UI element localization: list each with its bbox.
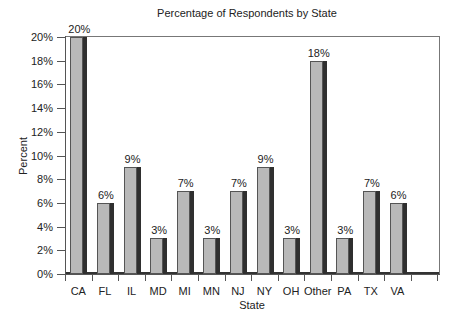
bar-side [349,238,353,274]
bar-md [150,238,167,274]
y-tick-label: 2% [0,244,53,256]
x-tick [118,274,119,281]
bar-mn [203,238,220,274]
y-tick-label: 20% [0,31,53,43]
bar-side [137,167,141,274]
bar-front [390,203,403,274]
bar-side [270,167,274,274]
y-axis-line [65,36,66,281]
x-tick [278,274,279,281]
bar-value-label: 3% [272,224,312,236]
bar-value-label: 6% [86,189,126,201]
x-tick [304,274,305,281]
bar-side [296,238,300,274]
y-tick-label: 14% [0,102,53,114]
y-tick [57,156,65,157]
bar-side [403,203,407,274]
y-tick-label: 0% [0,268,53,280]
bar-front [150,238,163,274]
bar-va [390,203,407,274]
bar-side [243,191,247,274]
y-tick [57,274,65,275]
x-tick [358,274,359,281]
y-tick [57,179,65,180]
bar-oh [283,238,300,274]
bar-il [124,167,141,274]
bar-value-label: 18% [299,47,339,59]
bar-value-label: 7% [352,177,392,189]
y-tick [57,132,65,133]
x-tick [384,274,385,281]
y-tick [57,250,65,251]
bar-side [110,203,114,274]
x-tick [171,274,172,281]
bar-side [323,61,327,274]
x-tick [411,274,412,281]
bar-ny [257,167,274,274]
chart-title: Percentage of Respondents by State [0,7,454,19]
bar-front [124,167,137,274]
bar-side [163,238,167,274]
bar-front [257,167,270,274]
bar-front [363,191,376,274]
bar-value-label: 9% [113,153,153,165]
bar-front [70,37,83,274]
y-tick [57,61,65,62]
bar-pa [336,238,353,274]
bar-front [283,238,296,274]
bar-front [310,61,323,274]
bar-tx [363,191,380,274]
bar-value-label: 7% [166,177,206,189]
bar-front [97,203,110,274]
x-tick [225,274,226,281]
bar-ca [70,37,87,274]
x-tick [92,274,93,281]
bar-value-label: 6% [379,189,419,201]
bar-value-label: 3% [192,224,232,236]
x-tick-label: VA [378,285,418,297]
bar-value-label: 3% [139,224,179,236]
bar-value-label: 7% [219,177,259,189]
bar-value-label: 9% [246,153,286,165]
bar-side [216,238,220,274]
x-tick [145,274,146,281]
y-tick [57,84,65,85]
bar-nj [230,191,247,274]
y-axis-title: Percent [17,131,29,181]
bar-front [203,238,216,274]
bar-fl [97,203,114,274]
y-tick-label: 4% [0,221,53,233]
x-tick [437,274,438,281]
y-tick [57,203,65,204]
bar-value-label: 20% [59,23,99,35]
x-tick [198,274,199,281]
x-tick [331,274,332,281]
x-tick [65,274,66,281]
y-tick [57,108,65,109]
y-tick [57,37,65,38]
y-tick [57,227,65,228]
bar-side [83,37,87,274]
bar-other [310,61,327,274]
chart-floor [66,272,439,274]
bar-front [177,191,190,274]
bar-value-label: 3% [325,224,365,236]
bar-front [336,238,349,274]
bar-front [230,191,243,274]
bar-side [376,191,380,274]
x-axis-title: State [232,299,272,311]
bar-mi [177,191,194,274]
y-tick-label: 16% [0,78,53,90]
y-tick-label: 6% [0,197,53,209]
y-tick-label: 18% [0,55,53,67]
x-tick [251,274,252,281]
